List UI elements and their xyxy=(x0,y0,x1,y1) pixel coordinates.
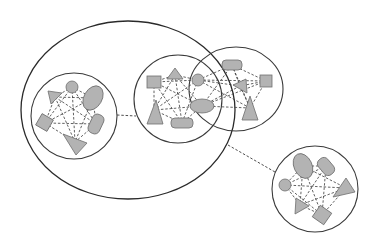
node-triangle xyxy=(63,134,87,155)
cluster-c xyxy=(189,47,283,131)
node-ellipse xyxy=(289,150,316,181)
node-ellipse xyxy=(190,99,214,113)
node-triangle xyxy=(167,68,183,79)
node-square xyxy=(36,114,54,132)
cluster-diagram xyxy=(0,0,375,251)
cluster-b xyxy=(134,55,222,143)
node-circle xyxy=(66,81,78,93)
node-circle xyxy=(279,179,291,191)
node-square xyxy=(260,75,272,87)
cluster-b-boundary xyxy=(134,55,222,143)
link-a-b xyxy=(117,115,136,116)
node-triangle xyxy=(295,198,309,214)
node-square xyxy=(312,205,331,224)
node-square xyxy=(147,76,161,88)
node-circle xyxy=(192,74,204,86)
cluster-a xyxy=(31,73,117,159)
node-rounded-rect xyxy=(86,112,105,135)
link-group-d xyxy=(228,145,275,172)
node-rounded-rect xyxy=(222,60,242,70)
diagram-canvas xyxy=(0,0,375,251)
node-ellipse xyxy=(79,82,108,114)
cluster-d-edges xyxy=(285,166,346,215)
cluster-d xyxy=(272,146,358,232)
node-triangle xyxy=(333,178,355,197)
node-triangle xyxy=(147,100,163,124)
node-rounded-rect xyxy=(171,118,193,128)
